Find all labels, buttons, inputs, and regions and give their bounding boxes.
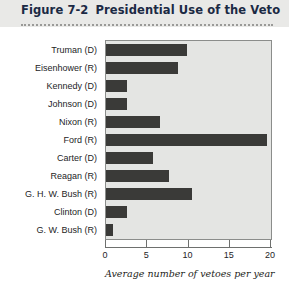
- bar-row: [106, 149, 271, 167]
- y-axis-tick-label: Eisenhower (R): [0, 59, 101, 77]
- bar-row: [106, 113, 271, 131]
- y-axis-tick-label: Carter (D): [0, 149, 101, 167]
- bar-row: [106, 221, 271, 239]
- x-axis-tick: [105, 240, 106, 248]
- x-axis-line: [105, 247, 272, 248]
- bar-row: [106, 131, 271, 149]
- bar: [106, 80, 127, 92]
- y-axis-tick-label: Ford (R): [0, 131, 101, 149]
- y-axis-tick-label: Clinton (D): [0, 203, 101, 221]
- x-axis-tick-label: 10: [182, 250, 192, 260]
- x-axis-tick: [270, 240, 271, 248]
- x-axis-title: Average number of vetoes per year: [105, 268, 272, 279]
- bar-row: [106, 59, 271, 77]
- bar: [106, 98, 127, 110]
- bar-row: [106, 41, 271, 59]
- bar: [106, 152, 153, 164]
- bar-row: [106, 185, 271, 203]
- figure-container: Figure 7-2 Presidential Use of the Veto …: [0, 0, 289, 294]
- bar: [106, 116, 160, 128]
- bar: [106, 62, 178, 74]
- x-axis-tick-label: 15: [224, 250, 234, 260]
- y-axis-tick-label: G. W. Bush (R): [0, 221, 101, 239]
- y-axis-tick-label: Truman (D): [0, 41, 101, 59]
- y-axis-tick-label: Nixon (R): [0, 113, 101, 131]
- y-axis-tick-label: G. H. W. Bush (R): [0, 185, 101, 203]
- y-axis-tick-label: Johnson (D): [0, 95, 101, 113]
- bar: [106, 44, 187, 56]
- x-axis-tick-label: 0: [102, 250, 107, 260]
- bar: [106, 170, 169, 182]
- bar-row: [106, 77, 271, 95]
- x-axis-tick: [229, 240, 230, 248]
- page-title: Presidential Use of the Veto: [95, 3, 280, 17]
- bar-series: [106, 41, 271, 239]
- figure-title-row: Figure 7-2 Presidential Use of the Veto: [21, 3, 280, 17]
- y-axis-labels: Truman (D)Eisenhower (R)Kennedy (D)Johns…: [0, 41, 101, 239]
- figure-number: Figure 7-2: [21, 3, 88, 17]
- bar: [106, 134, 267, 146]
- x-axis-tick-label: 5: [144, 250, 149, 260]
- x-axis-tick: [146, 240, 147, 248]
- title-divider: [21, 22, 273, 26]
- bar: [106, 224, 113, 236]
- bar-row: [106, 203, 271, 221]
- x-axis-tick: [188, 240, 189, 248]
- x-axis-tick-label: 20: [265, 250, 275, 260]
- bar: [106, 206, 127, 218]
- y-axis-tick-label: Reagan (R): [0, 167, 101, 185]
- bar-row: [106, 167, 271, 185]
- y-axis-tick-label: Kennedy (D): [0, 77, 101, 95]
- bar: [106, 188, 192, 200]
- bar-row: [106, 95, 271, 113]
